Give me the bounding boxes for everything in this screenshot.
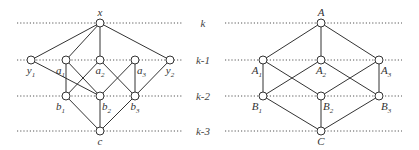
level-label: k-2 xyxy=(196,90,211,102)
node-a3 xyxy=(131,56,139,64)
node-B2 xyxy=(317,92,325,100)
node-label-b2: b2 xyxy=(102,100,112,115)
level-label: k xyxy=(201,17,207,29)
edge-x-y1 xyxy=(31,23,100,60)
node-B1 xyxy=(259,92,267,100)
level-label: k-1 xyxy=(196,54,210,66)
edge-B1-C xyxy=(263,96,321,131)
node-label-A1: A1 xyxy=(251,64,262,79)
node-label-B2: B2 xyxy=(323,100,334,115)
node-B3 xyxy=(375,92,383,100)
node-label-B3: B3 xyxy=(381,100,392,115)
node-A3 xyxy=(375,56,383,64)
node-y1 xyxy=(27,56,35,64)
node-label-B1: B1 xyxy=(252,100,262,115)
edge-A-A3 xyxy=(321,23,379,60)
level-label: k-3 xyxy=(196,125,211,137)
node-b3 xyxy=(131,92,139,100)
node-label-b1: b1 xyxy=(56,100,65,115)
node-label-A3: A3 xyxy=(380,64,392,79)
node-label-C: C xyxy=(317,135,325,147)
node-b1 xyxy=(62,92,70,100)
node-b2 xyxy=(96,92,104,100)
node-C xyxy=(317,127,325,135)
edge-A-A1 xyxy=(263,23,321,60)
edge-b1-c xyxy=(66,96,100,131)
node-a2 xyxy=(96,56,104,64)
node-label-y2: y2 xyxy=(165,64,175,79)
right-edges xyxy=(263,23,379,131)
node-x xyxy=(96,19,104,27)
level-labels: kk-1k-2k-3 xyxy=(196,17,211,137)
node-label-A: A xyxy=(317,6,325,18)
node-A xyxy=(317,19,325,27)
node-label-b3: b3 xyxy=(131,100,141,115)
node-label-A2: A2 xyxy=(315,64,327,79)
node-c xyxy=(96,127,104,135)
node-label-a1: a1 xyxy=(56,64,65,79)
node-label-y1: y1 xyxy=(26,64,35,79)
edge-x-y2 xyxy=(100,23,170,60)
node-label-x: x xyxy=(97,6,103,18)
left-graph: xy1a1a2a3y2b1b2b3c xyxy=(26,6,175,147)
level-lines xyxy=(17,23,402,131)
right-graph: AA1A2A3B1B2B3C xyxy=(251,6,392,147)
lattice-diagram: kk-1k-2k-3 xy1a1a2a3y2b1b2b3c AA1A2A3B1B… xyxy=(0,0,419,150)
node-A1 xyxy=(259,56,267,64)
edge-x-a1 xyxy=(66,23,100,60)
node-label-c: c xyxy=(98,135,103,147)
node-A2 xyxy=(317,56,325,64)
node-a1 xyxy=(62,56,70,64)
node-label-a3: a3 xyxy=(137,64,147,79)
node-label-a2: a2 xyxy=(96,64,106,79)
node-y2 xyxy=(166,56,174,64)
